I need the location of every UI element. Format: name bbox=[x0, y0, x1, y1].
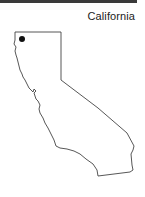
location-marker bbox=[19, 36, 25, 42]
state-outline bbox=[14, 32, 134, 176]
california-state-map bbox=[0, 0, 145, 197]
